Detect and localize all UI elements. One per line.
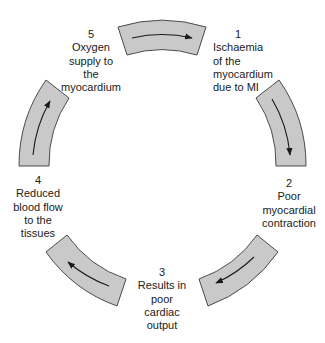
step-2-label: 2 Poor myocardial contraction [262, 177, 316, 230]
step-5-label: 5 Oxygen supply to the myocardium [61, 28, 121, 94]
step-text: cardiac [138, 306, 186, 319]
step-text: to the [13, 214, 63, 227]
step-text: supply to [61, 55, 121, 68]
step-text: tissues [13, 227, 63, 240]
step-text: due to MI [213, 81, 273, 94]
arrow-band-2-to-3 [199, 235, 278, 306]
step-3-label: 3 Results in poor cardiac output [138, 266, 186, 332]
step-number: 4 [13, 174, 63, 187]
step-number: 3 [138, 266, 186, 279]
step-text: output [138, 319, 186, 332]
arrow-band-5-to-1 [118, 20, 206, 55]
step-text: the [61, 68, 121, 81]
step-text: contraction [262, 217, 316, 230]
step-text: blood flow [13, 201, 63, 214]
step-text: Reduced [13, 187, 63, 200]
step-text: myocardium [213, 68, 273, 81]
step-4-label: 4 Reduced blood flow to the tissues [13, 174, 63, 240]
step-text: myocardium [61, 81, 121, 94]
step-text: myocardial [262, 204, 316, 217]
step-text: of the [213, 55, 273, 68]
step-text: Ischaemia [213, 41, 273, 54]
step-number: 2 [262, 177, 316, 190]
step-text: Poor [262, 190, 316, 203]
step-number: 5 [61, 28, 121, 41]
step-1-label: 1 Ischaemia of the myocardium due to MI [213, 28, 273, 94]
step-number: 1 [226, 28, 250, 41]
arrow-band-3-to-4 [46, 235, 126, 306]
step-text: Results in [138, 279, 186, 292]
step-text: poor [138, 293, 186, 306]
step-text: Oxygen [61, 41, 121, 54]
